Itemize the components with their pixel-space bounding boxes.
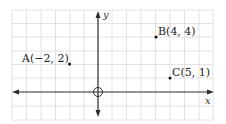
x-axis-label: x — [205, 95, 211, 106]
y-axis-label: y — [102, 9, 109, 20]
point-a: A(−2, 2) — [21, 52, 71, 66]
y-axis-down-arrow-icon — [96, 110, 101, 117]
point-a-label: A(−2, 2) — [21, 52, 69, 65]
x-axis-left-arrow-icon — [12, 90, 19, 95]
point-c: C(5, 1) — [169, 66, 211, 80]
point-b-label: B(4, 4) — [158, 25, 196, 38]
coordinate-plane: x y A(−2, 2) B(4, 4) C(5, 1) — [0, 0, 226, 124]
y-axis: y — [96, 9, 110, 117]
x-axis: x — [12, 90, 214, 107]
point-c-label: C(5, 1) — [172, 66, 210, 79]
y-axis-up-arrow-icon — [96, 11, 101, 18]
point-b: B(4, 4) — [155, 25, 196, 39]
